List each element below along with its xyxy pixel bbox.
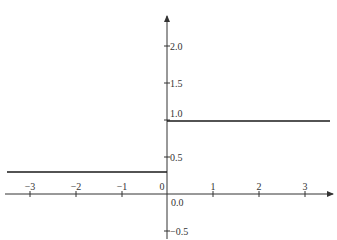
svg-text:−1: −1 (117, 181, 128, 192)
svg-text:1.0: 1.0 (170, 108, 183, 119)
svg-text:3: 3 (303, 181, 308, 192)
svg-text:−0.5: −0.5 (170, 226, 188, 237)
svg-text:1.5: 1.5 (170, 78, 183, 89)
svg-text:0.5: 0.5 (170, 152, 183, 163)
step-function-chart: −3 −2 −1 0 1 2 3 2.0 1.5 1.0 0.5 0.0 −0.… (0, 0, 337, 240)
y-origin-label: 0.0 (171, 197, 184, 208)
x-tick-labels: −3 −2 −1 0 1 2 3 (25, 181, 308, 192)
svg-text:2: 2 (257, 181, 262, 192)
svg-text:−2: −2 (71, 181, 82, 192)
x-origin-label: 0 (160, 181, 165, 192)
svg-text:−3: −3 (25, 181, 36, 192)
svg-text:1: 1 (211, 181, 216, 192)
y-tick-labels: 2.0 1.5 1.0 0.5 0.0 −0.5 (170, 41, 188, 237)
svg-text:2.0: 2.0 (170, 41, 183, 52)
